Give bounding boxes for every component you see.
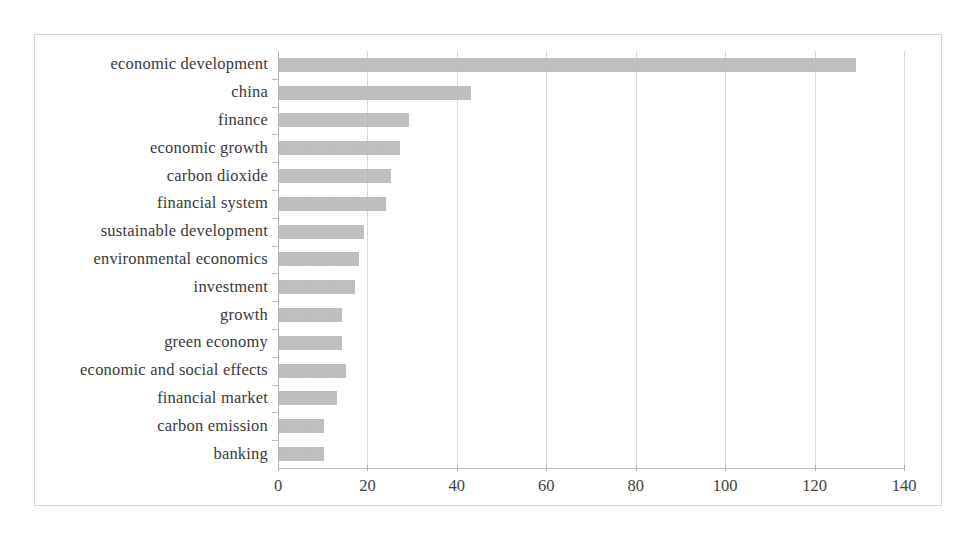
x-axis-tick-120 [815, 465, 816, 471]
x-axis-tick-label-40: 40 [427, 476, 487, 496]
bar-row [278, 218, 904, 248]
x-axis-tick-80 [636, 465, 637, 471]
bar-row [278, 190, 904, 220]
bar-row [278, 246, 904, 276]
bar-row [278, 273, 904, 303]
x-axis-tick-label-140: 140 [874, 476, 934, 496]
bar-row [278, 107, 904, 137]
bar-financial-market [279, 391, 337, 405]
bar-china [279, 86, 471, 100]
y-axis-tick [272, 273, 278, 274]
bar-finance [279, 113, 409, 127]
category-label-green-economy: green economy [35, 334, 268, 351]
bar-row [278, 134, 904, 164]
y-axis-tick [272, 79, 278, 80]
bar-row [278, 412, 904, 442]
category-label-sustainable-development: sustainable development [35, 223, 268, 240]
y-axis-tick [272, 134, 278, 135]
category-label-china: china [35, 84, 268, 101]
bar-row [278, 440, 904, 470]
bar-row [278, 329, 904, 359]
x-axis-tick-0 [278, 465, 279, 471]
category-label-financial-market: financial market [35, 390, 268, 407]
bar-row [278, 79, 904, 109]
x-axis-line [278, 468, 905, 469]
gridline-140 [904, 51, 905, 468]
x-axis-tick-60 [546, 465, 547, 471]
bar-financial-system [279, 197, 386, 211]
y-axis-tick [272, 440, 278, 441]
bar-banking [279, 447, 324, 461]
y-axis-tick [272, 385, 278, 386]
bar-row [278, 357, 904, 387]
y-axis-tick [272, 301, 278, 302]
category-label-growth: growth [35, 307, 268, 324]
x-axis-tick-label-60: 60 [516, 476, 576, 496]
x-axis-tick-label-20: 20 [337, 476, 397, 496]
category-label-investment: investment [35, 279, 268, 296]
chart-figure-frame: 020406080100120140 economic developmentc… [34, 34, 942, 506]
x-axis-tick-20 [367, 465, 368, 471]
x-axis-tick-label-100: 100 [695, 476, 755, 496]
category-label-economic-and-social-effects: economic and social effects [35, 362, 268, 379]
x-axis-tick-label-0: 0 [248, 476, 308, 496]
bar-row [278, 51, 904, 81]
plot-area [278, 51, 904, 468]
category-label-finance: finance [35, 112, 268, 129]
y-axis-tick [272, 246, 278, 247]
category-label-financial-system: financial system [35, 195, 268, 212]
y-axis-tick [272, 412, 278, 413]
category-label-economic-growth: economic growth [35, 140, 268, 157]
category-label-banking: banking [35, 446, 268, 463]
bar-row [278, 385, 904, 415]
bar-economic-and-social-effects [279, 364, 346, 378]
bar-growth [279, 308, 342, 322]
bar-sustainable-development [279, 225, 364, 239]
y-axis-tick [272, 190, 278, 191]
x-axis-tick-140 [904, 465, 905, 471]
bar-row [278, 301, 904, 331]
category-label-carbon-dioxide: carbon dioxide [35, 168, 268, 185]
bar-environmental-economics [279, 252, 359, 266]
bar-row [278, 162, 904, 192]
bar-investment [279, 280, 355, 294]
bar-carbon-emission [279, 419, 324, 433]
bar-economic-growth [279, 141, 400, 155]
y-axis-tick [272, 357, 278, 358]
bar-economic-development [279, 58, 856, 72]
category-label-economic-development: economic development [35, 56, 268, 73]
y-axis-tick [272, 329, 278, 330]
x-axis-tick-100 [725, 465, 726, 471]
bar-carbon-dioxide [279, 169, 391, 183]
x-axis-tick-40 [457, 465, 458, 471]
y-axis-tick [272, 162, 278, 163]
bar-green-economy [279, 336, 342, 350]
x-axis-tick-label-80: 80 [606, 476, 666, 496]
x-axis-tick-label-120: 120 [785, 476, 845, 496]
y-axis-tick [272, 218, 278, 219]
y-axis-tick [272, 107, 278, 108]
category-label-environmental-economics: environmental economics [35, 251, 268, 268]
category-label-carbon-emission: carbon emission [35, 418, 268, 435]
